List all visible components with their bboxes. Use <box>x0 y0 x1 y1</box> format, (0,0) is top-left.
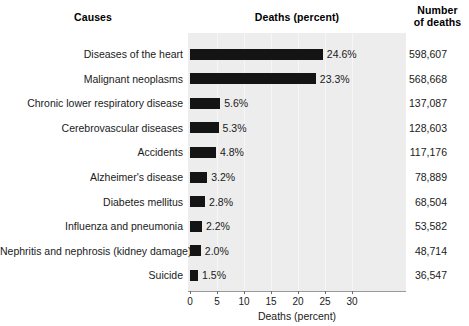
cause-label: Influenza and pneumonia <box>0 217 183 235</box>
number-of-deaths-value: 78,889 <box>386 168 447 186</box>
x-axis-tick-label: 10 <box>232 296 256 307</box>
chart-row: Diseases of the heart24.6%598,607 <box>0 45 469 63</box>
x-axis-tick-label: 25 <box>313 296 337 307</box>
bar-value-label: 5.3% <box>223 119 247 137</box>
bar <box>190 73 316 84</box>
bar-value-label: 2.2% <box>206 217 230 235</box>
number-of-deaths-value: 117,176 <box>386 143 447 161</box>
bar <box>190 245 201 256</box>
x-axis-tick-label: 30 <box>340 296 364 307</box>
x-axis-title: Deaths (percent) <box>188 310 406 322</box>
x-axis-tick-mark <box>217 291 218 294</box>
bar <box>190 221 202 232</box>
chart-row: Malignant neoplasms23.3%568,668 <box>0 70 469 88</box>
chart-row: Alzheimer's disease3.2%78,889 <box>0 168 469 186</box>
chart-row: Suicide1.5%36,547 <box>0 266 469 284</box>
bar <box>190 49 323 60</box>
bar-value-label: 3.2% <box>211 168 235 186</box>
x-axis-tick-mark <box>190 291 191 294</box>
column-header-causes: Causes <box>0 11 186 23</box>
cause-label: Accidents <box>0 143 183 161</box>
chart-row: Chronic lower respiratory disease5.6%137… <box>0 94 469 112</box>
column-header-number-line1: Number <box>406 4 469 16</box>
x-axis-tick-mark <box>271 291 272 294</box>
number-of-deaths-value: 53,582 <box>386 217 447 235</box>
bar-value-label: 24.6% <box>327 45 357 63</box>
column-header-deaths-percent: Deaths (percent) <box>188 11 406 23</box>
chart-row: Diabetes mellitus2.8%68,504 <box>0 193 469 211</box>
x-axis-tick-mark <box>325 291 326 294</box>
cause-label: Diabetes mellitus <box>0 193 183 211</box>
cause-label: Cerebrovascular diseases <box>0 119 183 137</box>
x-axis-tick-mark <box>352 291 353 294</box>
cause-label: Nephritis and nephrosis (kidney damage) <box>0 242 183 260</box>
bar <box>190 147 216 158</box>
number-of-deaths-value: 568,668 <box>386 70 447 88</box>
chart-row: Influenza and pneumonia2.2%53,582 <box>0 217 469 235</box>
number-of-deaths-value: 48,714 <box>386 242 447 260</box>
x-axis-line <box>188 291 406 292</box>
x-axis-tick-label: 0 <box>178 296 202 307</box>
cause-label: Alzheimer's disease <box>0 168 183 186</box>
chart-row: Accidents4.8%117,176 <box>0 143 469 161</box>
chart-row: Nephritis and nephrosis (kidney damage)2… <box>0 242 469 260</box>
chart-row: Cerebrovascular diseases5.3%128,603 <box>0 119 469 137</box>
x-axis-tick-mark <box>298 291 299 294</box>
column-header-number-of-deaths: Number of deaths <box>406 4 469 28</box>
bar <box>190 270 198 281</box>
number-of-deaths-value: 36,547 <box>386 266 447 284</box>
cause-label: Diseases of the heart <box>0 45 183 63</box>
x-axis-tick-label: 5 <box>205 296 229 307</box>
number-of-deaths-value: 598,607 <box>386 45 447 63</box>
bar-value-label: 5.6% <box>224 94 248 112</box>
bar <box>190 172 207 183</box>
bar <box>190 196 205 207</box>
bar <box>190 98 220 109</box>
cause-label: Chronic lower respiratory disease <box>0 94 183 112</box>
number-of-deaths-value: 137,087 <box>386 94 447 112</box>
number-of-deaths-value: 128,603 <box>386 119 447 137</box>
x-axis-tick-mark <box>244 291 245 294</box>
chart-figure: Causes Deaths (percent) Number of deaths… <box>0 0 469 326</box>
cause-label: Suicide <box>0 266 183 284</box>
bar-value-label: 2.0% <box>205 242 229 260</box>
bar-value-label: 1.5% <box>202 266 226 284</box>
x-axis-tick-label: 15 <box>259 296 283 307</box>
bar-value-label: 4.8% <box>220 143 244 161</box>
bar-value-label: 23.3% <box>320 70 350 88</box>
cause-label: Malignant neoplasms <box>0 70 183 88</box>
bar <box>190 122 219 133</box>
column-header-number-line2: of deaths <box>406 16 469 28</box>
bar-value-label: 2.8% <box>209 193 233 211</box>
x-axis-tick-label: 20 <box>286 296 310 307</box>
number-of-deaths-value: 68,504 <box>386 193 447 211</box>
